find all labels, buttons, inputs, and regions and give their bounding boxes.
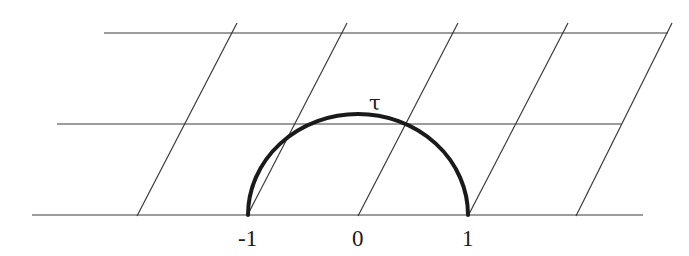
slanted-grid-lines bbox=[137, 23, 672, 216]
semicircle-arc bbox=[248, 114, 468, 215]
slanted-line-4 bbox=[468, 23, 568, 216]
minus-one-label: -1 bbox=[238, 226, 257, 251]
zero-label: 0 bbox=[352, 226, 364, 251]
slanted-line-3 bbox=[358, 23, 458, 216]
tau-label: τ bbox=[369, 91, 381, 115]
slanted-line-5 bbox=[576, 23, 672, 216]
horizontal-grid-lines bbox=[32, 33, 668, 215]
lattice-diagram: τ -1 0 1 bbox=[0, 0, 689, 256]
slanted-line-1 bbox=[137, 23, 237, 216]
slanted-line-2 bbox=[247, 23, 347, 216]
one-label: 1 bbox=[462, 226, 474, 251]
